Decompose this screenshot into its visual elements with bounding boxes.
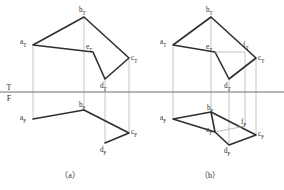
vertex-labels-group: aTbTcTdTeTaFbFcFdFaTbTcTdTeTfTaFbFcFdFeF…	[20, 6, 265, 157]
vertex-label-dT-top-a: dT	[100, 82, 108, 92]
reference-line-bottom-label: F	[7, 94, 12, 103]
projection-drawing-canvas: T F aTbTcTdTeTaFbFcFdFaTbTcTdTeTfTaFbFcF…	[0, 0, 284, 190]
vertex-label-eF-front-b: eF	[206, 126, 212, 136]
vertex-label-bT-top-a: bT	[79, 6, 87, 16]
top-view-outline-a	[33, 17, 129, 79]
figure-captions-group: （a）（b）	[60, 171, 220, 180]
vertex-label-dT-top-b: dT	[224, 82, 232, 92]
vertex-label-bF-front-a: bF	[79, 101, 86, 111]
engineering-drawing-figure: T F aTbTcTdTeTaFbFcFdFaTbTcTdTeTfTaFbFcF…	[0, 0, 284, 190]
object-outlines-group	[33, 17, 256, 145]
reference-line-top-label: T	[7, 83, 12, 92]
vertex-label-cF-front-a: cF	[131, 128, 137, 138]
vertex-label-bT-top-b: bT	[206, 6, 214, 16]
vertex-label-dF-front-b: dF	[224, 147, 231, 157]
projection-lines-group	[33, 17, 256, 145]
vertex-label-cF-front-b: cF	[258, 130, 264, 140]
vertex-label-cT-top-b: cT	[258, 54, 265, 64]
vertex-label-aT-top-a: aT	[20, 38, 27, 48]
vertex-label-cT-top-a: cT	[131, 54, 138, 64]
vertex-label-aT-top-b: aT	[160, 38, 167, 48]
figure-caption-b: （b）	[200, 171, 220, 180]
vertex-label-aF-front-a: aF	[20, 114, 26, 124]
front-view-edge-ef-b	[215, 126, 245, 132]
vertex-label-aF-front-b: aF	[160, 114, 166, 124]
vertex-label-fT-top-b: fT	[243, 41, 249, 51]
front-view-outline-a	[33, 110, 129, 143]
vertex-label-dF-front-a: dF	[100, 146, 107, 156]
figure-caption-a: （a）	[60, 171, 80, 180]
